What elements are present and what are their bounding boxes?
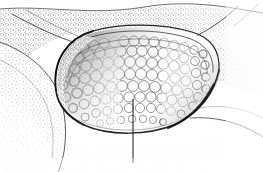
bottom-edge-softening: [0, 158, 263, 172]
scientific-illustration-figure: faceted dome structure Dome-shaped cellu…: [0, 0, 263, 172]
illustration-canvas: [0, 0, 263, 172]
right-edge-softening: [226, 0, 263, 172]
